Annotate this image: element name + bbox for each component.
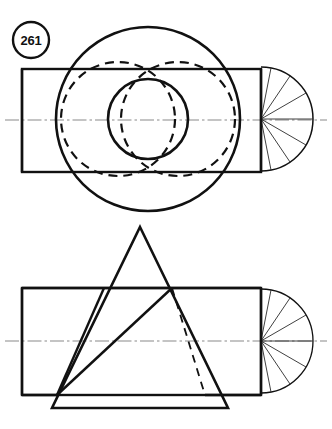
figure-label-badge: 261	[13, 22, 49, 58]
technical-drawing: 261	[0, 0, 332, 429]
figure-number-label: 261	[21, 33, 42, 48]
drawing-sheet: 261	[0, 0, 332, 429]
